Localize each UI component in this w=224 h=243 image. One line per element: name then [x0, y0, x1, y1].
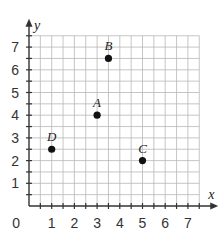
point-c: C [138, 141, 147, 165]
point-marker [139, 157, 146, 164]
origin-label: 0 [12, 215, 20, 231]
y-tick-label: 7 [11, 39, 19, 55]
y-tick-label: 5 [11, 85, 19, 101]
y-axis-arrow-icon [26, 19, 33, 27]
x-axis-label: x [207, 187, 215, 202]
x-tick-label: 2 [71, 215, 79, 231]
point-label: A [92, 95, 101, 110]
data-points: ABCD [46, 38, 147, 164]
y-axis-label: y [32, 18, 41, 33]
point-marker [48, 146, 55, 153]
x-tick-label: 3 [93, 215, 101, 231]
x-axis-arrow-icon [210, 203, 218, 210]
point-marker [94, 112, 101, 119]
point-label: D [46, 129, 57, 144]
coordinate-plane: 12345671234567 x y 0 ABCD [0, 0, 224, 243]
x-tick-label: 6 [161, 215, 169, 231]
y-tick-label: 1 [11, 175, 19, 191]
x-tick-label: 1 [48, 215, 56, 231]
point-b: B [104, 38, 112, 62]
point-marker [105, 55, 112, 62]
point-label: B [104, 38, 112, 53]
x-tick-label: 7 [184, 215, 192, 231]
x-tick-label: 5 [139, 215, 147, 231]
grid-lines [29, 36, 199, 206]
y-tick-label: 3 [11, 130, 19, 146]
y-tick-label: 2 [11, 153, 19, 169]
y-tick-label: 6 [11, 62, 19, 78]
x-tick-label: 4 [116, 215, 124, 231]
y-tick-label: 4 [11, 107, 19, 123]
point-label: C [138, 141, 147, 156]
